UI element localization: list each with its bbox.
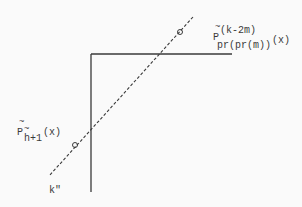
axis-label-k-double-prime: k" (49, 186, 61, 196)
upper-point-marker (178, 30, 183, 35)
lower-label-argument: (x) (43, 128, 61, 138)
lower-label-base: P (17, 128, 23, 138)
lower-label-subscript: h+1 (24, 134, 42, 144)
diagram-canvas (0, 0, 302, 207)
upper-label-superscript: (k-2m) (220, 26, 256, 36)
upper-label-subscript: pr(pr(m)) (217, 41, 271, 51)
upper-label-argument: (x) (272, 36, 290, 46)
dashed-line (49, 17, 193, 176)
